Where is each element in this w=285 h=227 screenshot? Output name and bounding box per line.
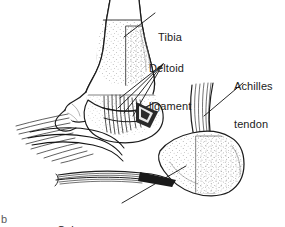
figure-corner-mark: b bbox=[1, 214, 7, 225]
plantar-fascia-fibers bbox=[55, 171, 176, 187]
label-deltoid-line-1: Deltoid bbox=[149, 62, 191, 75]
label-deltoid-ligament: Deltoid ligament bbox=[149, 37, 191, 137]
label-achilles-line-2: tendon bbox=[234, 118, 273, 131]
label-deltoid-line-2: ligament bbox=[149, 100, 191, 113]
label-achilles-tendon: Achilles tendon bbox=[234, 55, 273, 155]
illustration-ink bbox=[16, 0, 248, 203]
anatomy-figure: Tibia Deltoid ligament Achilles tendon C… bbox=[0, 0, 285, 227]
label-calcaneus-line-1: Calcaneus bbox=[57, 224, 110, 227]
label-achilles-line-1: Achilles bbox=[234, 80, 273, 93]
label-calcaneus: Calcaneus bbox=[57, 199, 110, 227]
